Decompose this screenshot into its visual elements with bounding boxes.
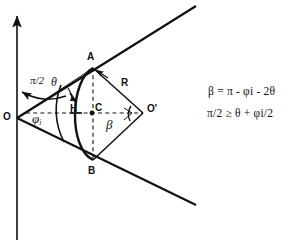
figure-canvas: O A B C H O' π/2 θ φi β R β = π - φi - 2… bbox=[0, 0, 290, 248]
point-label-O: O bbox=[3, 112, 11, 122]
upper-ray bbox=[17, 6, 196, 118]
phi-subscript: i bbox=[39, 118, 41, 127]
segment-B-Oprime bbox=[93, 113, 143, 160]
center-point-C bbox=[90, 111, 95, 116]
point-label-O-prime: O' bbox=[147, 104, 157, 114]
point-label-A: A bbox=[87, 52, 94, 62]
geometry-diagram bbox=[0, 0, 290, 248]
angle-label-beta: β bbox=[106, 118, 112, 131]
angle-arc-half-pi bbox=[22, 92, 66, 99]
angle-label-half-pi: π/2 bbox=[30, 75, 44, 86]
equation-constraint: π/2 ≥ θ + φi/2 bbox=[207, 108, 273, 120]
angle-label-theta: θ bbox=[51, 76, 57, 88]
angle-label-phi-i: φi bbox=[32, 110, 41, 127]
point-label-B: B bbox=[88, 166, 95, 176]
point-label-C: C bbox=[95, 103, 102, 113]
equation-beta: β = π - φi - 2θ bbox=[208, 86, 275, 98]
point-label-H: H bbox=[70, 104, 77, 114]
length-label-R: R bbox=[121, 78, 128, 88]
